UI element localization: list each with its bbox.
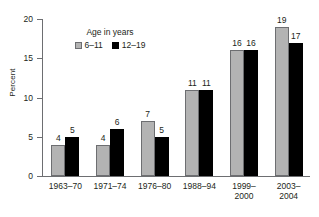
legend: Age in years 6–1112–19 (60, 27, 160, 50)
x-axis-category-label: 2003–2004 (261, 181, 317, 201)
bar (155, 137, 169, 176)
legend-item: 12–19 (112, 41, 146, 50)
category-label-line: 2004 (261, 191, 317, 201)
legend-label: 6–11 (85, 41, 103, 50)
category-label-line: 2003– (261, 181, 317, 191)
bar-pair (185, 19, 213, 176)
legend-swatch (112, 42, 119, 49)
legend-swatch (75, 42, 82, 49)
bar-pair (275, 19, 303, 176)
bar (51, 145, 65, 176)
bar (199, 90, 213, 176)
bar (110, 129, 124, 176)
legend-item: 6–11 (75, 41, 103, 50)
bar (244, 50, 258, 176)
bar (289, 43, 303, 176)
y-axis-tick-label: 15 (11, 54, 33, 63)
legend-items: 6–1112–19 (60, 41, 160, 50)
legend-label: 12–19 (122, 41, 146, 50)
bar-pair (230, 19, 258, 176)
y-axis-tick-label: 5 (11, 133, 33, 142)
bar-chart: Percent 05101520 454675111116161917 1963… (0, 0, 319, 217)
bar (185, 90, 199, 176)
bar (275, 27, 289, 176)
legend-title: Age in years (60, 27, 160, 37)
bar (65, 137, 79, 176)
bar (141, 121, 155, 176)
y-axis-tick-label: 0 (11, 172, 33, 181)
y-axis-tick (37, 176, 42, 177)
bar (96, 145, 110, 176)
y-axis-tick-label: 20 (11, 15, 33, 24)
bar (230, 50, 244, 176)
y-axis-tick-label: 10 (11, 94, 33, 103)
x-axis-line (42, 176, 310, 177)
